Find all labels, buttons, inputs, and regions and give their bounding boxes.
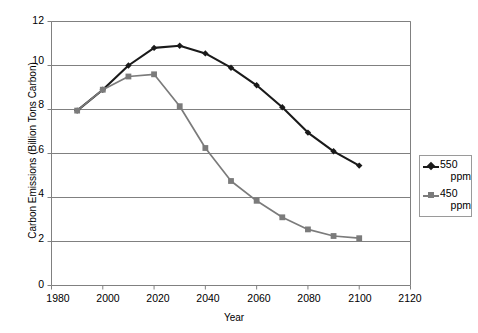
legend-label-550ppm-line1: 550: [440, 158, 458, 170]
series-line: [77, 46, 359, 166]
series-550-ppm: [74, 43, 362, 169]
data-point: [126, 74, 132, 80]
series-line: [77, 74, 359, 238]
legend-label-450ppm: 450 ppm: [440, 187, 473, 211]
data-point: [177, 43, 183, 49]
legend-marker-diamond-icon: [423, 162, 439, 171]
legend-item-450ppm: 450 ppm: [420, 187, 473, 214]
plot-area: [0, 0, 478, 333]
data-point: [331, 233, 337, 239]
series-450-ppm: [74, 71, 362, 241]
data-point: [305, 227, 311, 233]
data-point: [202, 145, 208, 151]
data-point: [100, 87, 106, 93]
data-point: [254, 198, 260, 204]
data-point: [279, 214, 285, 220]
legend-marker-square-icon: [423, 191, 439, 200]
legend-label-450ppm-line2: ppm: [440, 199, 473, 211]
data-point: [228, 178, 234, 184]
legend-label-450ppm-line1: 450: [440, 187, 458, 199]
data-point: [356, 235, 362, 241]
data-point: [74, 108, 80, 114]
data-point: [177, 103, 183, 109]
data-point: [151, 71, 157, 77]
legend-label-550ppm-line2: ppm: [440, 170, 473, 182]
legend-item-550ppm: 550 ppm: [420, 158, 473, 185]
legend-label-550ppm: 550 ppm: [440, 158, 473, 182]
chart-legend: 550 ppm 450 ppm: [419, 155, 472, 217]
carbon-emissions-line-chart: Carbon Emissions (Billion Tons Carbon) 1…: [0, 0, 478, 333]
